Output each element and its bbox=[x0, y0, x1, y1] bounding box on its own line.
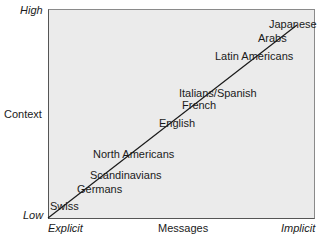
culture-label: North Americans bbox=[93, 148, 174, 160]
culture-label: English bbox=[159, 117, 195, 129]
y-axis-high-label: High bbox=[20, 4, 43, 16]
culture-label: Scandinavians bbox=[90, 169, 162, 181]
culture-label: Italians/Spanish bbox=[179, 87, 257, 99]
culture-label: Latin Americans bbox=[215, 50, 293, 62]
x-axis-explicit-label: Explicit bbox=[48, 222, 83, 234]
x-axis-implicit-label: Implicit bbox=[281, 222, 315, 234]
culture-label: Swiss bbox=[50, 200, 79, 212]
y-axis-low-label: Low bbox=[23, 209, 43, 221]
culture-label: Germans bbox=[77, 183, 122, 195]
culture-label: French bbox=[182, 99, 216, 111]
culture-label: Japanese bbox=[269, 18, 317, 30]
x-axis-label: Messages bbox=[158, 222, 208, 234]
culture-label: Arabs bbox=[258, 32, 287, 44]
y-axis-label: Context bbox=[4, 108, 42, 120]
